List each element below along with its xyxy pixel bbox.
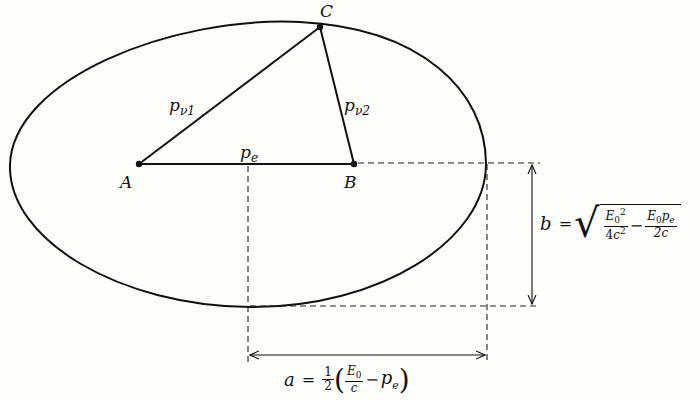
point-c-label: C bbox=[320, 3, 333, 20]
formula-semi-minor-axis: b =√ E02 4c2 − E0pe 2c bbox=[540, 203, 681, 243]
minus-a: − bbox=[365, 370, 378, 389]
point-c-dot bbox=[317, 24, 323, 30]
minus-b: − bbox=[630, 216, 643, 235]
fraction-e0-over-c: E0 c bbox=[345, 365, 364, 394]
point-a-label: A bbox=[120, 174, 132, 191]
t1-e: E bbox=[606, 209, 615, 223]
construction-lines bbox=[248, 163, 540, 364]
symbol-a: a bbox=[284, 369, 295, 390]
label-p-e: pe bbox=[240, 144, 258, 165]
e-symbol: E bbox=[347, 364, 356, 378]
term-p-e: pe bbox=[381, 367, 399, 388]
label-p-e-sub: e bbox=[251, 151, 258, 165]
fraction-e0sq-over-4csq: E02 4c2 bbox=[604, 208, 628, 241]
e-sub: 0 bbox=[356, 370, 362, 380]
square-root: √ E02 4c2 − E0pe 2c bbox=[574, 203, 681, 243]
radical-sign: √ bbox=[574, 200, 600, 246]
point-b-label: B bbox=[344, 174, 357, 191]
point-b-dot bbox=[351, 161, 357, 167]
t2-num: E0pe bbox=[645, 210, 677, 227]
formula-semi-major-axis: a = 1 2 ( E0 c −pe) bbox=[284, 363, 410, 396]
label-p-nu2: pν2 bbox=[344, 97, 370, 118]
equals-a: = bbox=[302, 370, 315, 389]
label-p-nu1-base: p bbox=[169, 95, 180, 115]
close-paren: ) bbox=[399, 363, 410, 396]
t2-p-sub: e bbox=[669, 216, 674, 226]
frac-den: c bbox=[345, 382, 364, 395]
segment-ac bbox=[139, 27, 320, 164]
point-a-dot bbox=[136, 161, 142, 167]
t1-den: 4c2 bbox=[604, 227, 628, 242]
label-p-nu1-sub: ν1 bbox=[180, 104, 195, 118]
frac-num: E0 bbox=[345, 365, 364, 382]
t2-den: 2c bbox=[645, 227, 677, 240]
label-p-nu1: pν1 bbox=[169, 97, 195, 118]
p-symbol: p bbox=[381, 367, 393, 388]
open-paren: ( bbox=[334, 363, 345, 396]
label-p-nu2-sub: ν2 bbox=[355, 104, 370, 118]
t1-num: E02 bbox=[604, 208, 628, 227]
coef-one-half: 1 2 bbox=[322, 366, 334, 392]
t1-e-sup: 2 bbox=[620, 207, 626, 217]
radicand: E02 4c2 − E0pe 2c bbox=[600, 204, 681, 241]
fraction-e0pe-over-2c: E0pe 2c bbox=[645, 210, 677, 239]
equals-b: = bbox=[559, 214, 572, 233]
t2-e: E bbox=[647, 209, 656, 223]
label-p-e-base: p bbox=[240, 142, 251, 162]
t1-den-c: c bbox=[613, 228, 620, 242]
coef-den: 2 bbox=[322, 380, 334, 393]
coef-num: 1 bbox=[322, 366, 334, 380]
symbol-b: b bbox=[540, 213, 552, 234]
t1-den-sup: 2 bbox=[620, 226, 626, 236]
label-p-nu2-base: p bbox=[344, 95, 355, 115]
